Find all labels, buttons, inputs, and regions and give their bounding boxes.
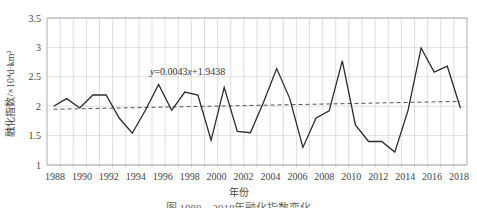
x-tick-label: 1994	[126, 171, 146, 182]
x-tick-label: 1988	[45, 171, 65, 182]
y-tick-label: 3.5	[29, 13, 42, 24]
y-axis-label: 融化指数/×10⁴d·km²	[1, 18, 17, 168]
gridlines	[47, 18, 467, 168]
y-tick-label: 2	[36, 101, 41, 112]
x-tick-label: 2006	[287, 171, 307, 182]
x-tick-label: 2008	[314, 171, 334, 182]
x-tick-label: 2004	[260, 171, 280, 182]
x-tick-label: 2010	[341, 171, 361, 182]
x-axis-ticks: 1988199019921994199619982000200220042006…	[45, 171, 469, 182]
x-tick-label: 1992	[99, 171, 119, 182]
y-tick-label: 2.5	[29, 71, 42, 82]
melt-index-chart: 11.522.533.5 198819901992199419961998200…	[0, 0, 477, 208]
x-tick-label: 2014	[395, 171, 415, 182]
x-tick-label: 2012	[368, 171, 388, 182]
y-tick-label: 1	[36, 160, 41, 171]
x-tick-label: 2000	[207, 171, 227, 182]
x-axis-label: 年份	[0, 184, 477, 199]
x-tick-label: 2018	[449, 171, 469, 182]
y-axis-ticks: 11.522.533.5	[29, 13, 42, 171]
x-tick-label: 1996	[153, 171, 173, 182]
x-tick-label: 2016	[422, 171, 442, 182]
x-tick-label: 1998	[180, 171, 200, 182]
trend-equation: y=0.0043x+1.9438	[149, 66, 225, 77]
y-tick-label: 1.5	[29, 130, 42, 141]
figure-caption: 图 1988—2018年融化指数变化	[0, 200, 477, 208]
x-tick-label: 2002	[234, 171, 254, 182]
y-axis-label-text: 融化指数/×10⁴d·km²	[2, 50, 17, 136]
x-tick-label: 1990	[72, 171, 92, 182]
y-tick-label: 3	[36, 42, 41, 53]
